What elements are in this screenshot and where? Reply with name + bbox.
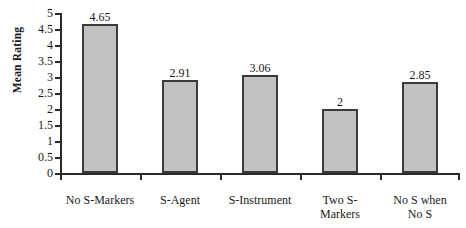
x-tick-mark bbox=[60, 174, 62, 180]
bar-value-label: 4.65 bbox=[90, 11, 111, 23]
y-tick-label: 1 bbox=[47, 135, 53, 147]
y-tick-mark bbox=[55, 77, 60, 79]
bar-value-label: 2 bbox=[337, 96, 343, 108]
bar: 2 bbox=[322, 109, 358, 173]
bar: 4.65 bbox=[82, 24, 118, 173]
y-tick-mark bbox=[55, 93, 60, 95]
x-category-label-line: No S-Markers bbox=[60, 193, 140, 207]
bar-value-label: 2.85 bbox=[410, 69, 431, 81]
x-tick-mark bbox=[220, 174, 222, 180]
y-axis-title: Mean Rating bbox=[11, 5, 23, 115]
y-tick-label: 5 bbox=[47, 7, 53, 19]
y-axis-line bbox=[60, 13, 62, 175]
y-tick-label: 0 bbox=[47, 167, 53, 179]
plot-area: 54.543.532.521.510.50 4.652.913.0622.85 … bbox=[60, 13, 460, 174]
y-tick-mark bbox=[55, 157, 60, 159]
y-tick-mark bbox=[55, 29, 60, 31]
y-tick-label: 2 bbox=[47, 103, 53, 115]
x-category-label-line: Markers bbox=[300, 207, 380, 221]
bar-chart-figure: Mean Rating 54.543.532.521.510.50 4.652.… bbox=[0, 0, 466, 228]
x-category-label: S-Instrument bbox=[220, 193, 300, 207]
y-tick-mark bbox=[55, 61, 60, 63]
bar: 2.85 bbox=[402, 82, 438, 173]
x-category-label-line: S-Agent bbox=[140, 193, 220, 207]
y-tick-label: 4.5 bbox=[38, 23, 53, 35]
bar: 2.91 bbox=[162, 80, 198, 173]
bar-value-label: 2.91 bbox=[170, 67, 191, 79]
y-tick-label: 3.5 bbox=[38, 55, 53, 67]
y-tick-mark bbox=[55, 109, 60, 111]
x-tick-mark bbox=[300, 174, 302, 180]
y-tick-label: 1.5 bbox=[38, 119, 53, 131]
y-tick-label: 3 bbox=[47, 71, 53, 83]
x-tick-mark bbox=[380, 174, 382, 180]
y-tick-mark bbox=[55, 125, 60, 127]
x-category-label-line: No S when bbox=[380, 193, 460, 207]
y-tick-label: 4 bbox=[47, 39, 53, 51]
x-category-label-line: No S bbox=[380, 207, 460, 221]
bar-value-label: 3.06 bbox=[250, 62, 271, 74]
x-category-label: S-Agent bbox=[140, 193, 220, 207]
bar: 3.06 bbox=[242, 75, 278, 173]
x-category-label: Two S-Markers bbox=[300, 193, 380, 221]
x-axis-line bbox=[60, 173, 460, 175]
x-tick-mark bbox=[140, 174, 142, 180]
y-tick-mark bbox=[55, 141, 60, 143]
y-tick-label: 0.5 bbox=[38, 151, 53, 163]
x-category-label-line: S-Instrument bbox=[220, 193, 300, 207]
y-tick-label: 2.5 bbox=[38, 87, 53, 99]
x-tick-mark bbox=[458, 174, 460, 180]
x-category-label: No S whenNo S bbox=[380, 193, 460, 221]
x-category-label: No S-Markers bbox=[60, 193, 140, 207]
y-tick-mark bbox=[55, 45, 60, 47]
y-tick-mark bbox=[55, 13, 60, 15]
x-category-label-line: Two S- bbox=[300, 193, 380, 207]
